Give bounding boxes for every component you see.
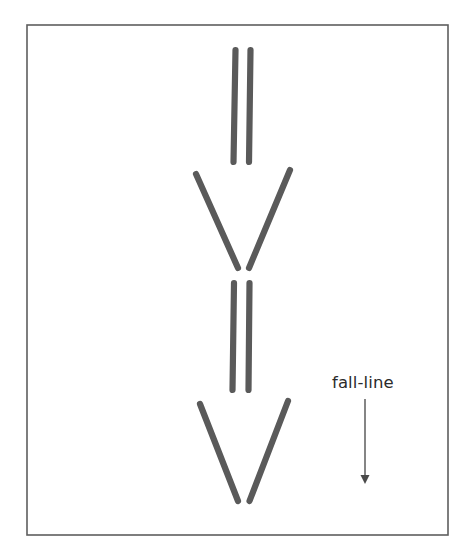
diagram-canvas: fall-line [0, 0, 475, 556]
track-pair-1-parallel-line-1 [234, 50, 236, 162]
ski-track-figure: fall-line [0, 0, 475, 556]
track-pair-3-parallel-line-2 [249, 283, 250, 390]
fall-line-label: fall-line [332, 373, 394, 392]
track-pair-3-parallel-line-1 [233, 283, 235, 390]
track-pair-1-parallel-line-2 [249, 50, 251, 162]
